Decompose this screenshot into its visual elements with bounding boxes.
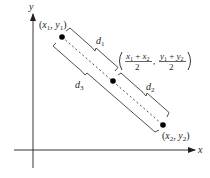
midpoint-diagram: x y d1 d2 d3 (x1, y1) (x2, y2)	[0, 0, 210, 178]
svg-text:,: ,	[153, 56, 155, 66]
p2-label: (x2, y2)	[162, 130, 190, 143]
svg-text:y1 + y2: y1 + y2	[159, 51, 184, 62]
y-denominator: 2	[169, 62, 174, 72]
midpoint-formula: x1 + x2 2 , y1 + y2 2	[120, 51, 191, 72]
d3-label: d3	[75, 79, 84, 92]
d2-label: d2	[146, 81, 155, 94]
x-axis-label: x	[197, 144, 203, 155]
x-denominator: 2	[135, 62, 140, 72]
p1-label: (x1, y1)	[39, 19, 67, 32]
point-p1	[59, 34, 65, 40]
bracket-d2: d2	[118, 73, 169, 117]
svg-text:x1 + x2: x1 + x2	[125, 51, 150, 62]
y-axis-label: y	[28, 1, 34, 12]
point-midpoint	[110, 78, 116, 84]
point-p2	[160, 122, 166, 128]
d1-label: d1	[96, 35, 105, 48]
